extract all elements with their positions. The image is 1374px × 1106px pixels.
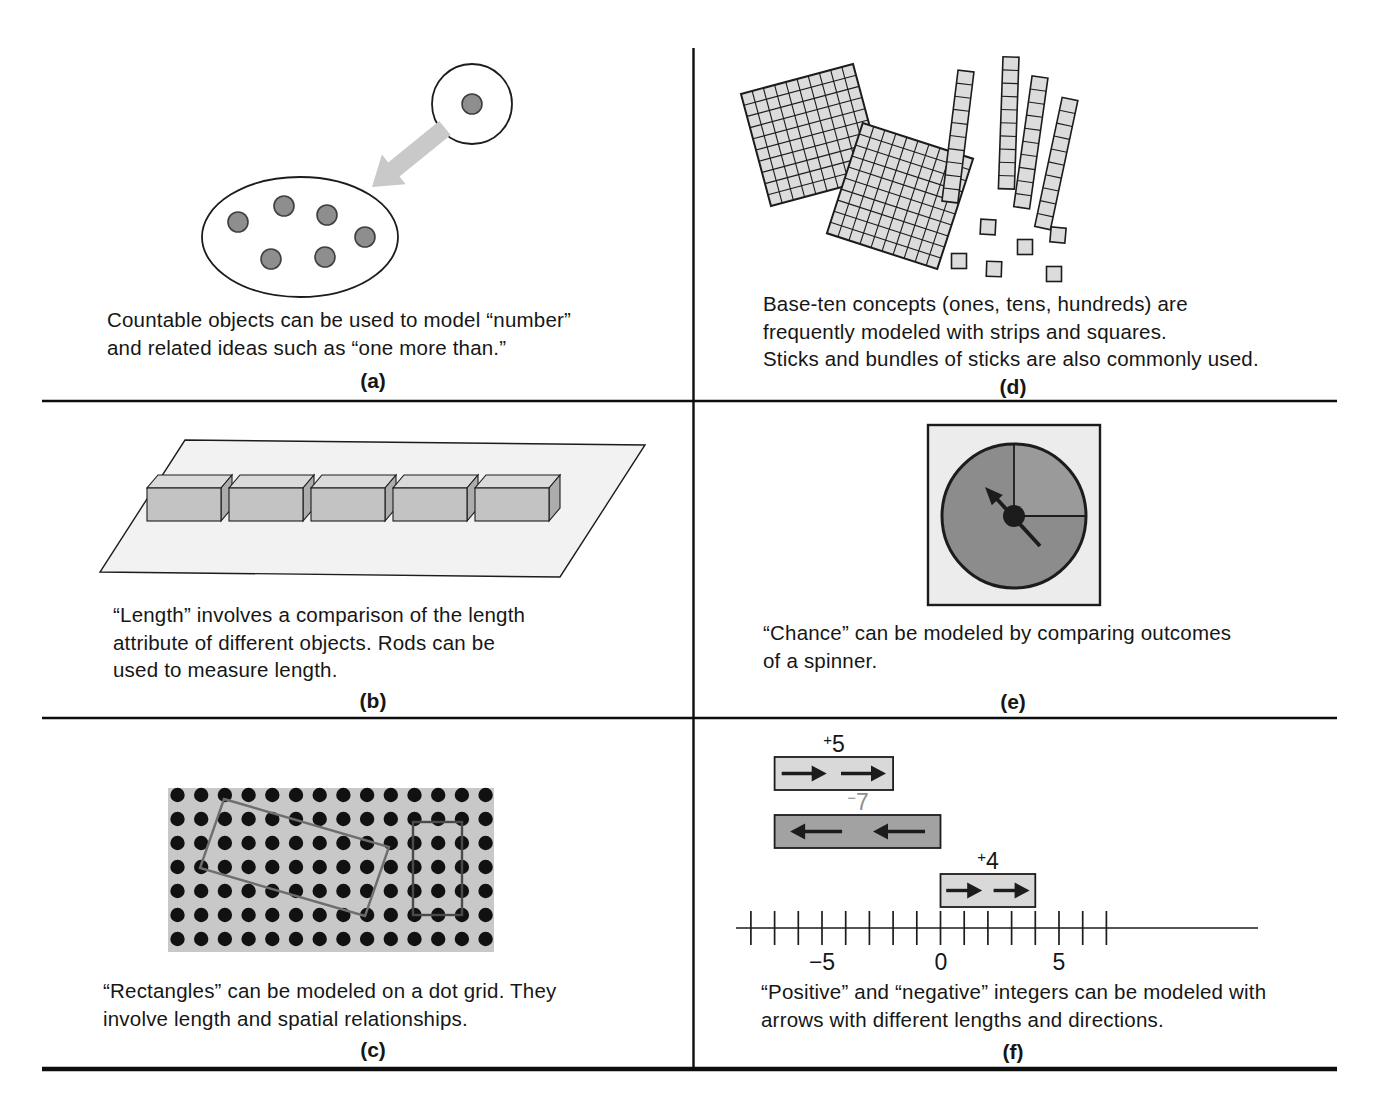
- caption-e: “Chance” can be modeled by comparing out…: [763, 619, 1231, 674]
- caption-line: “Length” involves a comparison of the le…: [113, 601, 525, 629]
- grid-dot: [241, 932, 255, 946]
- grid-dot: [265, 860, 279, 874]
- grid-dot: [478, 908, 492, 922]
- ten-strip: [998, 57, 1019, 189]
- grid-dot: [313, 860, 327, 874]
- grid-dot: [336, 860, 350, 874]
- caption-line: “Chance” can be modeled by comparing out…: [763, 619, 1231, 647]
- caption-line: Base-ten concepts (ones, tens, hundreds)…: [763, 290, 1259, 318]
- grid-dot: [241, 908, 255, 922]
- grid-dot: [313, 884, 327, 898]
- rods: [147, 475, 560, 521]
- panel-label-a: (a): [313, 369, 433, 393]
- integer-bar: [775, 815, 941, 848]
- grid-dot: [241, 836, 255, 850]
- grid-dot: [289, 836, 303, 850]
- grid-dot: [336, 884, 350, 898]
- grid-dot: [218, 908, 232, 922]
- grid-dot: [336, 836, 350, 850]
- panel-label-d: (d): [953, 375, 1073, 399]
- tick-label-5: 5: [1027, 949, 1091, 976]
- counter-dot: [355, 227, 375, 247]
- panel-label-e: (e): [953, 690, 1073, 714]
- grid-dot: [478, 884, 492, 898]
- grid-dot: [194, 908, 208, 922]
- grid-dot: [384, 860, 398, 874]
- grid-dot: [384, 908, 398, 922]
- bar-sign: −: [847, 789, 856, 806]
- caption-a: Countable objects can be used to model “…: [107, 306, 571, 361]
- grid-dot: [241, 884, 255, 898]
- grid-dot: [431, 788, 445, 802]
- grid-dot: [218, 860, 232, 874]
- rod: [147, 475, 232, 521]
- bar-label-plus4: +4: [943, 848, 1033, 875]
- spinner-center-dot: [1003, 505, 1025, 527]
- grid-dot: [360, 932, 374, 946]
- caption-line: and related ideas such as “one more than…: [107, 334, 571, 362]
- caption-line: “Positive” and “negative” integers can b…: [761, 978, 1266, 1006]
- grid-dot: [265, 908, 279, 922]
- grid-dot: [384, 932, 398, 946]
- grid-dot: [360, 788, 374, 802]
- rod: [475, 475, 560, 521]
- tick-label-0: 0: [909, 949, 973, 976]
- grid-dot: [170, 908, 184, 922]
- caption-line: involve length and spatial relationships…: [103, 1005, 556, 1033]
- grid-dot: [265, 788, 279, 802]
- grid-dot: [384, 836, 398, 850]
- grid-dot: [313, 908, 327, 922]
- grid-dot: [407, 860, 421, 874]
- caption-c: “Rectangles” can be modeled on a dot gri…: [103, 977, 556, 1032]
- panel-d-graphic: [741, 57, 1078, 282]
- bar-magnitude: 7: [856, 789, 869, 815]
- grid-dot: [170, 836, 184, 850]
- grid-dot: [194, 932, 208, 946]
- counter-dot: [261, 249, 281, 269]
- grid-dot: [431, 932, 445, 946]
- grid-dot: [431, 860, 445, 874]
- grid-dot: [478, 788, 492, 802]
- counter-dot: [228, 212, 248, 232]
- ones-square: [986, 261, 1002, 277]
- panel-c-graphic: [168, 788, 494, 952]
- panel-label-f: (f): [953, 1040, 1073, 1064]
- ten-strips: [942, 57, 1078, 230]
- rod: [311, 475, 396, 521]
- grid-dot: [407, 812, 421, 826]
- grid-dot: [194, 812, 208, 826]
- grid-dot: [218, 932, 232, 946]
- grid-dot: [407, 788, 421, 802]
- grid-dot: [289, 860, 303, 874]
- grid-dot: [407, 932, 421, 946]
- grid-dot: [431, 812, 445, 826]
- ones-square: [1018, 240, 1033, 255]
- grid-dot: [170, 812, 184, 826]
- panel-a-graphic: [202, 64, 512, 297]
- grid-dot: [336, 812, 350, 826]
- grid-dot: [289, 788, 303, 802]
- grid-dot: [455, 932, 469, 946]
- grid-dot: [313, 812, 327, 826]
- caption-line: Countable objects can be used to model “…: [107, 306, 571, 334]
- bar-magnitude: 4: [986, 848, 999, 874]
- textbook-figure: Countable objects can be used to model “…: [0, 0, 1374, 1106]
- bar-label-plus5: +5: [789, 731, 879, 758]
- ones-square: [980, 219, 996, 235]
- bar-magnitude: 5: [832, 731, 845, 757]
- caption-line: used to measure length.: [113, 656, 525, 684]
- panel-label-b: (b): [313, 689, 433, 713]
- caption-b: “Length” involves a comparison of the le…: [113, 601, 525, 684]
- grid-dot: [241, 860, 255, 874]
- grid-dot: [313, 788, 327, 802]
- grid-dot: [218, 884, 232, 898]
- grid-dot: [265, 932, 279, 946]
- grid-dot: [431, 836, 445, 850]
- integer-bar: [941, 874, 1036, 907]
- grid-dot: [478, 932, 492, 946]
- grid-dot: [407, 836, 421, 850]
- grid-dot: [360, 860, 374, 874]
- caption-f: “Positive” and “negative” integers can b…: [761, 978, 1266, 1033]
- grid-dot: [478, 860, 492, 874]
- hundreds-squares: [741, 64, 973, 269]
